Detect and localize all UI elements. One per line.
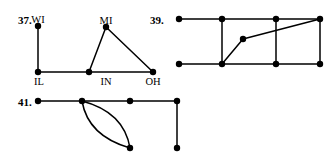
edge-39-diagonal-upper xyxy=(243,19,320,39)
vertex-41-lens-bottom xyxy=(127,145,133,151)
vertex-39-middle xyxy=(240,36,246,42)
vertex-41-top-right xyxy=(174,98,180,104)
vertex-41-left xyxy=(35,98,41,104)
edge-39-diagonal-lower xyxy=(222,39,243,64)
vertex-mi xyxy=(103,24,109,30)
edge-41-lens-inner xyxy=(82,101,130,148)
graphs-canvas xyxy=(0,0,329,162)
vertex-39-bottom-third xyxy=(273,61,279,67)
edge-mi-oh xyxy=(106,27,153,72)
vertex-39-bottom-right xyxy=(317,61,323,67)
vertex-oh xyxy=(150,69,156,75)
graph-37 xyxy=(35,23,156,75)
vertex-in xyxy=(86,69,92,75)
graph-39 xyxy=(176,16,323,67)
graph-41 xyxy=(35,98,180,151)
vertex-il xyxy=(35,69,41,75)
edge-mi-in xyxy=(89,27,106,72)
vertex-39-top-left xyxy=(176,16,182,22)
vertex-39-bottom-left xyxy=(176,61,182,67)
worksheet-page: 37. 39. 41. WI MI IL IN OH xyxy=(0,0,329,162)
vertex-41-second xyxy=(79,98,85,104)
vertex-41-third xyxy=(127,98,133,104)
vertex-wi xyxy=(35,23,41,29)
vertex-39-top-third xyxy=(273,16,279,22)
vertex-39-top-right xyxy=(317,16,323,22)
edge-41-lens-outer xyxy=(82,101,130,148)
vertex-41-bottom-right xyxy=(174,145,180,151)
vertex-39-top-second xyxy=(219,16,225,22)
vertex-39-bottom-second xyxy=(219,61,225,67)
